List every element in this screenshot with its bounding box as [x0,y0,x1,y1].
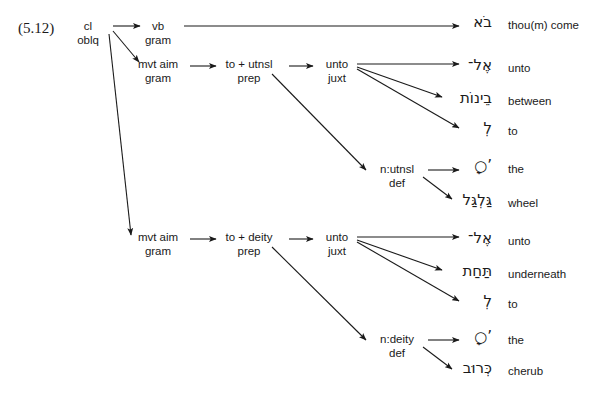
tree-node-def1: n:utnsldef [380,163,414,190]
edge-arrow [357,69,459,128]
node-line-secondary: juxt [326,245,348,259]
gloss-t-unto-1: unto [508,61,530,75]
gloss-t-between: between [508,94,551,108]
edge-arrow [272,74,366,170]
hebrew-term-t-wheel: גַּלְגַּל [463,192,492,209]
hebrew-term-t-unto-2: אֶל־ [468,230,492,247]
node-line-primary: n:deity [380,333,414,347]
edge-arrow [357,67,442,97]
node-line-secondary: prep [226,245,273,259]
hebrew-term-t-between: בֵינוֹת [460,90,492,107]
tree-node-root: cloblq [77,20,99,47]
hebrew-term-t-to-2: לְ [483,293,492,310]
tree-node-vb: vbgram [145,20,171,47]
hebrew-term-t-cherub: כְּרוּב [463,360,492,377]
edge-arrow [357,240,442,270]
tree-node-juxt1: untojuxt [326,58,348,85]
node-line-secondary: juxt [326,72,348,86]
node-line-primary: unto [326,231,348,245]
node-line-primary: mvt aim [138,231,178,245]
node-line-primary: to + utnsl [226,58,273,72]
node-line-secondary: prep [226,72,273,86]
tree-node-prep2: to + deityprep [226,231,273,258]
tree-node-mvt2: mvt aimgram [138,231,178,258]
node-line-primary: n:utnsl [380,163,414,177]
edge-arrow [109,34,131,235]
edge-arrow [272,247,366,340]
gloss-t-to-2: to [508,297,518,311]
node-line-secondary: oblq [77,34,99,48]
edge-arrow [357,242,459,301]
gloss-t-the-2: the [508,333,524,347]
node-line-secondary: def [380,177,414,191]
hebrew-term-t-underneath: תַּחַת [462,263,492,280]
tree-node-def2: n:deitydef [380,333,414,360]
gloss-t-come: thou(m) come [508,18,579,32]
node-line-primary: unto [326,58,348,72]
edge-arrow [423,347,452,369]
node-line-primary: to + deity [226,231,273,245]
gloss-t-cherub: cherub [508,364,543,378]
node-line-secondary: gram [138,245,178,259]
node-line-secondary: gram [138,72,178,86]
hebrew-term-t-come: בֹא [473,14,492,31]
hebrew-term-t-the-2: ’○ָ [474,329,492,346]
node-line-secondary: gram [145,34,171,48]
hebrew-term-t-the-1: ’○ָ [474,158,492,175]
tree-node-juxt2: untojuxt [326,231,348,258]
hebrew-term-t-to-1: לְ [483,120,492,137]
hebrew-term-t-unto-1: אֶל־ [468,57,492,74]
gloss-t-the-1: the [508,162,524,176]
gloss-t-underneath: underneath [508,267,566,281]
edge-arrow [113,31,139,62]
tree-node-mvt1: mvt aimgram [138,58,178,85]
tree-node-prep1: to + utnslprep [226,58,273,85]
gloss-t-wheel: wheel [508,196,538,210]
edge-arrow [423,177,452,199]
gloss-t-to-1: to [508,124,518,138]
node-line-primary: cl [77,20,99,34]
node-line-secondary: def [380,347,414,361]
gloss-t-unto-2: unto [508,234,530,248]
tree-diagram: (5.12) cloblqvbgrammvt aimgramto + utnsl… [0,0,602,408]
node-line-primary: mvt aim [138,58,178,72]
node-line-primary: vb [145,20,171,34]
